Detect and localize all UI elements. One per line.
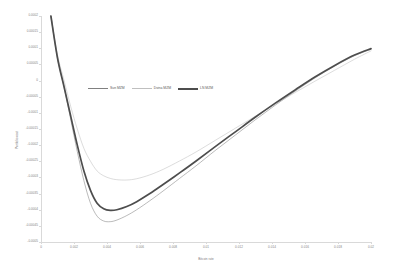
x-axis-tick-mark bbox=[338, 242, 339, 244]
y-axis-tick-label: 0.0002 bbox=[28, 14, 38, 17]
x-axis-tick-label: 0.018 bbox=[334, 246, 342, 249]
x-axis-tick-mark bbox=[305, 242, 306, 244]
series-line-dvina bbox=[51, 16, 371, 180]
line-chart: Portfolio cost 0.00020.000150.00010.0000… bbox=[0, 0, 393, 280]
legend-label-ln: LN MZM bbox=[200, 87, 213, 90]
x-axis-tick-label: 0 bbox=[40, 246, 42, 249]
y-axis-title: Portfolio cost bbox=[16, 131, 19, 149]
x-axis-tick-mark bbox=[371, 242, 372, 244]
y-axis-tick-label: -0.00015 bbox=[26, 127, 38, 130]
y-axis-tick-label: -0.0005 bbox=[27, 240, 38, 243]
x-axis-tick-label: 0.004 bbox=[103, 246, 111, 249]
legend-swatch-dvina-icon bbox=[132, 88, 152, 89]
series-lines bbox=[41, 16, 371, 242]
x-axis-tick-label: 0.014 bbox=[268, 246, 276, 249]
x-axis-tick-label: 0.016 bbox=[301, 246, 309, 249]
x-axis-tick-label: 0.008 bbox=[169, 246, 177, 249]
y-axis-tick-label: -0.0002 bbox=[27, 144, 38, 147]
legend-label-dvina: Dvina MZM bbox=[154, 87, 171, 90]
x-axis-tick-mark bbox=[41, 242, 42, 244]
y-axis-tick-label: 0.0001 bbox=[28, 47, 38, 50]
x-axis-tick-label: 0.012 bbox=[235, 246, 243, 249]
chart-legend: Sun MZM Dvina MZM LN MZM bbox=[88, 87, 213, 90]
series-line-sun bbox=[51, 16, 371, 222]
y-axis-tick-label: -0.00035 bbox=[26, 192, 38, 195]
x-axis-tick-label: 0.002 bbox=[70, 246, 78, 249]
legend-swatch-ln-icon bbox=[178, 88, 198, 90]
x-axis-tick-mark bbox=[272, 242, 273, 244]
legend-item-sun: Sun MZM bbox=[88, 87, 125, 90]
y-axis-tick-label: -0.0001 bbox=[27, 111, 38, 114]
series-line-ln bbox=[51, 16, 371, 210]
x-axis-tick-mark bbox=[206, 242, 207, 244]
x-axis-tick-mark bbox=[239, 242, 240, 244]
legend-item-dvina: Dvina MZM bbox=[132, 87, 171, 90]
x-axis-tick-label: 0.01 bbox=[203, 246, 209, 249]
legend-label-sun: Sun MZM bbox=[110, 87, 125, 90]
x-axis-tick-mark bbox=[173, 242, 174, 244]
y-axis-tick-label: 0.00015 bbox=[27, 31, 38, 34]
x-axis-tick-mark bbox=[140, 242, 141, 244]
plot-area: 0.00020.000150.00010.000050-0.00005-0.00… bbox=[41, 16, 371, 242]
y-axis-tick-label: 0.00005 bbox=[27, 63, 38, 66]
x-axis-tick-mark bbox=[74, 242, 75, 244]
y-axis-tick-label: 0 bbox=[36, 79, 38, 82]
y-axis-tick-label: -0.00045 bbox=[26, 224, 38, 227]
legend-swatch-sun-icon bbox=[88, 88, 108, 89]
x-axis-tick-mark bbox=[107, 242, 108, 244]
y-axis-tick-label: -0.0004 bbox=[27, 208, 38, 211]
y-axis-tick-label: -0.00025 bbox=[26, 160, 38, 163]
x-axis-tick-label: 0.02 bbox=[368, 246, 374, 249]
x-axis-title: Bitcoin rate bbox=[41, 258, 371, 261]
x-axis-tick-label: 0.006 bbox=[136, 246, 144, 249]
y-axis-tick-label: -0.0003 bbox=[27, 176, 38, 179]
y-axis-tick-label: -0.00005 bbox=[26, 95, 38, 98]
legend-item-ln: LN MZM bbox=[178, 87, 213, 90]
